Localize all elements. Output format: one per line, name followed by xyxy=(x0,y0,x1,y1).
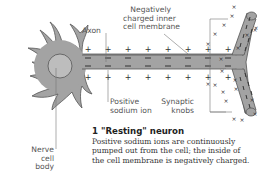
svg-text:×: × xyxy=(229,12,234,19)
svg-text:+: + xyxy=(225,73,232,82)
svg-text:×: × xyxy=(219,67,224,74)
svg-text:×: × xyxy=(212,30,217,37)
caption-title: 1 "Resting" neuron xyxy=(92,126,184,136)
caption-body: Positive sodium ions are continuously pu… xyxy=(92,137,258,165)
svg-text:+: + xyxy=(105,45,112,54)
svg-text:×: × xyxy=(244,31,249,38)
caption-line: the cell membrane is negatively charged. xyxy=(92,156,258,165)
label-synaptic-line2: knobs xyxy=(158,107,194,116)
label-sodium: Positive sodium ion xyxy=(110,98,152,115)
svg-text:×: × xyxy=(223,97,228,104)
label-cell-body: Nerve cell body xyxy=(26,146,54,172)
svg-text:+: + xyxy=(85,45,92,54)
svg-text:×: × xyxy=(231,115,236,122)
svg-text:×: × xyxy=(239,116,244,123)
svg-text:×: × xyxy=(249,96,254,103)
svg-text:+: + xyxy=(165,45,172,54)
nucleus xyxy=(48,54,72,78)
label-membrane: Negatively charged inner cell membrane xyxy=(123,6,171,32)
label-synaptic: Synaptic knobs xyxy=(158,98,194,115)
svg-text:×: × xyxy=(220,88,225,95)
svg-text:+: + xyxy=(85,73,92,82)
svg-text:+: + xyxy=(145,45,152,54)
svg-text:×: × xyxy=(218,55,223,62)
svg-text:+: + xyxy=(225,45,232,54)
caption-line: pumped out from the cell; the inside of xyxy=(92,146,258,155)
svg-text:×: × xyxy=(253,24,258,31)
caption-line: Positive sodium ions are continuously xyxy=(92,137,258,146)
svg-text:+: + xyxy=(125,73,132,82)
svg-text:×: × xyxy=(232,76,237,83)
svg-text:+: + xyxy=(165,73,172,82)
label-membrane-line3: cell membrane xyxy=(123,23,171,32)
svg-text:×: × xyxy=(221,21,226,28)
svg-text:×: × xyxy=(252,110,257,117)
svg-text:×: × xyxy=(231,3,236,10)
label-axon: Axon xyxy=(82,27,101,36)
svg-text:×: × xyxy=(212,81,217,88)
svg-text:+: + xyxy=(125,45,132,54)
svg-text:×: × xyxy=(235,44,240,51)
label-cell-body-line3: body xyxy=(26,163,54,172)
svg-text:+: + xyxy=(185,73,192,82)
label-sodium-line2: sodium ion xyxy=(110,107,152,116)
svg-text:×: × xyxy=(233,85,238,92)
svg-text:+: + xyxy=(145,73,152,82)
svg-text:+: + xyxy=(185,45,192,54)
